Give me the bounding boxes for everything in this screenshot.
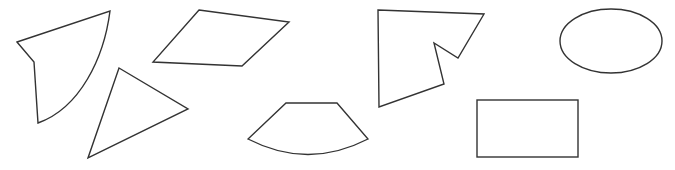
curved-quadrilateral-shape bbox=[17, 11, 110, 123]
rectangle-shape bbox=[477, 100, 578, 157]
shapes-diagram bbox=[0, 0, 675, 170]
concave-polygon-shape bbox=[378, 10, 484, 107]
shapes-canvas bbox=[0, 0, 675, 170]
ellipse-shape bbox=[560, 9, 662, 73]
parallelogram-shape bbox=[153, 10, 289, 66]
triangle-shape bbox=[88, 68, 188, 158]
annular-sector-shape bbox=[248, 103, 368, 155]
